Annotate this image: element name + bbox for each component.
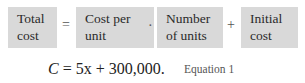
equation: C = 5x + 300,000. xyxy=(48,60,165,78)
term-box-initial-cost: Initial cost xyxy=(241,7,298,48)
term-line: Total xyxy=(17,10,57,27)
term-line: Initial xyxy=(250,10,298,27)
term-line: Cost per xyxy=(85,10,154,27)
operator-plus: + xyxy=(227,17,235,33)
term-line: cost xyxy=(250,27,298,44)
term-box-number-of-units: Number of units xyxy=(157,7,223,48)
term-line: cost xyxy=(17,27,57,44)
operator-equals: = xyxy=(62,17,70,33)
term-line: Number xyxy=(166,10,223,27)
term-box-total-cost: Total cost xyxy=(8,7,57,48)
operator-times: · xyxy=(148,18,153,34)
term-line: unit xyxy=(85,27,154,44)
equation-label: Equation 1 xyxy=(184,63,234,75)
term-box-cost-per-unit: Cost per unit xyxy=(76,7,154,48)
term-line: of units xyxy=(166,27,223,44)
